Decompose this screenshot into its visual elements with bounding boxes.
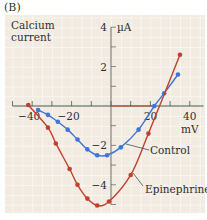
control-label: Control — [150, 144, 191, 156]
epinephrine-data-point — [146, 131, 151, 136]
epinephrine-data-point — [178, 52, 183, 57]
control-data-point — [95, 153, 100, 158]
epinephrine-data-point — [85, 196, 90, 201]
y-tick-label: −4 — [92, 179, 108, 191]
control-data-point — [85, 147, 90, 152]
y-axis-title: Calcium current — [11, 19, 55, 43]
y-tick-label: 2 — [100, 61, 107, 73]
y-tick-label: −2 — [92, 139, 107, 151]
epinephrine-data-point — [54, 141, 59, 146]
epinephrine-data-point — [107, 199, 112, 204]
control-data-point — [119, 145, 124, 150]
control-data-point — [65, 127, 70, 132]
control-data-point — [105, 153, 110, 158]
y-title-line2: current — [11, 31, 55, 43]
x-tick-label: −20 — [58, 110, 80, 122]
control-data-point — [56, 119, 61, 124]
control-data-point — [75, 137, 80, 142]
x-unit-label: mV — [181, 123, 199, 135]
x-tick-label: 40 — [183, 110, 196, 122]
y-title-line1: Calcium — [11, 19, 55, 31]
epinephrine-data-point — [75, 183, 80, 188]
y-unit-label: µA — [117, 21, 132, 33]
y-tick-label: 4 — [100, 21, 107, 33]
epinephrine-data-point — [95, 203, 100, 208]
control-data-point — [152, 104, 157, 109]
epinephrine-data-point — [26, 103, 31, 108]
control-data-point — [46, 113, 51, 118]
control-data-point — [176, 72, 181, 77]
epinephrine-data-point — [67, 167, 72, 172]
epinephrine-data-point — [46, 125, 51, 130]
control-data-point — [36, 108, 41, 113]
control-data-point — [136, 127, 141, 132]
epinephrine-data-point — [128, 173, 133, 178]
epinephrine-label: Epinephrine — [145, 183, 207, 195]
